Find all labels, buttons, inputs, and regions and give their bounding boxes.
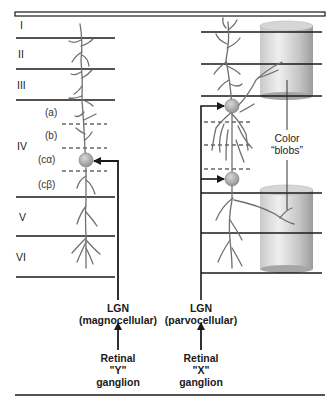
magno-neuron-soma [79, 153, 93, 167]
layer-label-v: V [19, 212, 26, 223]
layer-label-iv: IV [17, 141, 27, 152]
left-layer-boundaries [16, 38, 115, 277]
sublayer-label-c-alpha: (cα) [38, 155, 55, 165]
magno-neuron-dendrites [69, 24, 100, 268]
sublayer-label-c-beta: (cβ) [38, 180, 55, 190]
sublayer-label-b: (b) [45, 131, 57, 141]
sublayer-label-a: (a) [45, 108, 57, 118]
layer-label-vi: VI [16, 252, 26, 263]
layer-label-i: I [20, 20, 23, 31]
cortex-diagram [0, 0, 331, 403]
color-blobs-label: Color “blobs” [270, 132, 304, 156]
retinal-x-ganglion-label: Retinal "X" ganglion [171, 352, 231, 388]
lgn-magnocellular-label: LGN (magnocellular) [78, 302, 158, 326]
magno-input-arrow [94, 161, 118, 300]
pia-surface-bar [15, 12, 325, 16]
parvo-neuron-soma-upper [225, 99, 239, 113]
lgn-parvocellular-label: LGN (parvocellular) [161, 302, 241, 326]
parvo-neuron-soma-lower [225, 172, 239, 186]
layer-label-ii: II [18, 49, 24, 60]
retinal-y-ganglion-label: Retinal "Y" ganglion [88, 352, 148, 388]
layer-label-iii: III [17, 80, 26, 91]
